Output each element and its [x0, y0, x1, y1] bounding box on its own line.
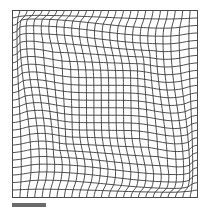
grid-line-vertical	[79, 11, 92, 198]
grid-border	[13, 11, 198, 198]
grid-line-vertical	[117, 11, 130, 198]
grid-line-horizontal	[13, 26, 198, 36]
grid-line-vertical	[171, 11, 184, 198]
grid-line-horizontal	[13, 189, 198, 192]
grid-line-vertical	[56, 11, 69, 198]
grid-line-vertical	[34, 11, 47, 198]
grid-line-horizontal	[13, 64, 198, 74]
deformation-grid-figure	[0, 0, 209, 211]
grid-line-horizontal	[13, 133, 198, 143]
grid-line-horizontal	[13, 15, 198, 19]
grid-line-horizontal	[13, 141, 198, 151]
warped-grid	[13, 11, 198, 198]
grid-line-vertical	[133, 11, 146, 198]
scale-bar	[12, 203, 46, 207]
grid-line-vertical	[125, 11, 138, 198]
grid-line-horizontal	[13, 80, 198, 90]
grid-line-horizontal	[13, 110, 198, 120]
grid-line-horizontal	[13, 72, 198, 82]
grid-line-vertical	[72, 11, 85, 198]
grid-line-horizontal	[13, 118, 198, 128]
grid-line-horizontal	[13, 126, 198, 136]
grid-line-vertical	[26, 11, 39, 198]
grid-line-vertical	[163, 11, 176, 198]
grid-line-horizontal	[13, 164, 198, 174]
grid-line-horizontal	[13, 156, 198, 166]
grid-line-vertical	[17, 11, 21, 198]
grid-line-vertical	[64, 11, 77, 198]
grid-line-horizontal	[13, 57, 198, 67]
grid-line-vertical	[140, 11, 153, 198]
